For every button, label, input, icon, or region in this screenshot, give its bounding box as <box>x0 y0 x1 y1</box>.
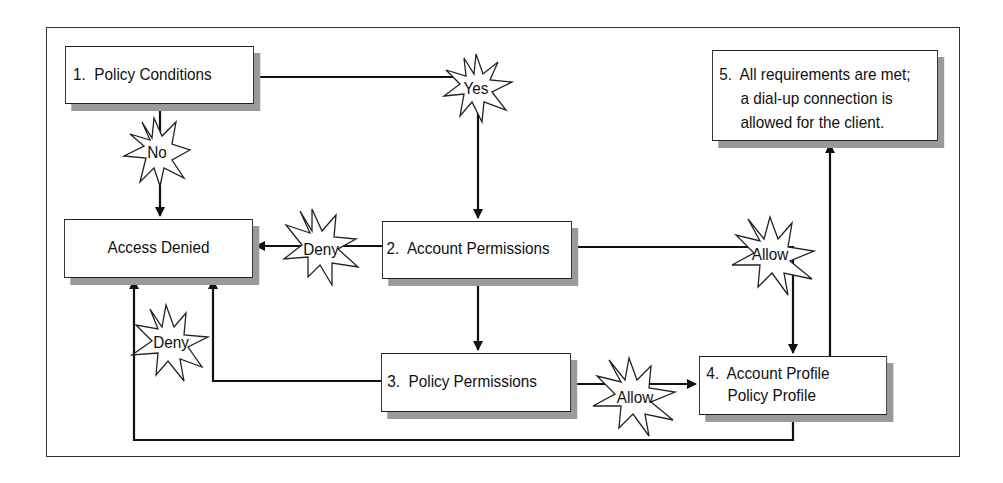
node-label-line1: 4. Account Profile <box>706 363 886 385</box>
node-label-line2: Policy Profile <box>706 385 886 407</box>
edge-label-allow-policy: Allow <box>617 388 654 408</box>
edge-label-deny-account: Deny <box>303 240 339 260</box>
node-label-line1: 5. All requirements are met; <box>719 63 937 87</box>
edge-label-allow-account: Allow <box>752 245 789 265</box>
node-requirements-met: 5. All requirements are met; a dial-up c… <box>712 50 938 141</box>
node-label: Access Denied <box>65 237 252 259</box>
node-account-policy-profile: 4. Account Profile Policy Profile <box>699 356 887 415</box>
edge-3-denied <box>213 280 381 381</box>
node-label: 3. Policy Permissions <box>387 371 570 393</box>
node-account-permissions: 2. Account Permissions <box>382 221 572 279</box>
node-label: 2. Account Permissions <box>387 238 572 260</box>
node-access-denied: Access Denied <box>64 219 253 278</box>
edge-label-yes: Yes <box>464 79 489 99</box>
node-label-line2: a dial-up connection is <box>719 87 937 111</box>
node-policy-permissions: 3. Policy Permissions <box>381 353 571 412</box>
node-policy-conditions: 1. Policy Conditions <box>65 46 254 104</box>
edge-label-no: No <box>147 143 167 163</box>
node-label-line3: allowed for the client. <box>719 111 937 135</box>
node-label: 1. Policy Conditions <box>73 64 253 86</box>
edge-label-deny-policy: Deny <box>153 333 189 353</box>
